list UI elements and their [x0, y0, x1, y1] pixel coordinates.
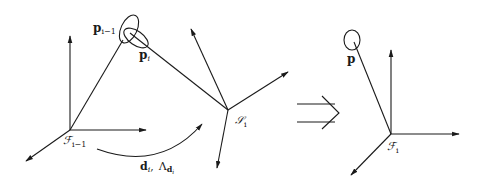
vector-frame-to-point — [70, 40, 123, 130]
frame-prev: ℱi−1 — [26, 36, 146, 161]
vector-frame-to-point-right — [354, 42, 391, 134]
implies-arrow — [297, 96, 339, 129]
frame-curr-label: ℱi — [387, 140, 399, 155]
transform-arrow — [97, 124, 202, 156]
sensor-label: 𝒮i — [235, 114, 247, 129]
sensor-frame: 𝒮i — [191, 29, 288, 168]
vector-point-to-sensor — [130, 33, 228, 110]
frame-prev-label: ℱi−1 — [63, 134, 86, 149]
point-uncertainty-ellipse-right — [344, 30, 360, 50]
frame-curr: ℱi — [351, 50, 459, 175]
sensor-axis-down — [217, 110, 228, 168]
diagram: ℱi−1 pi−1 pi 𝒮i di,Λdi ℱi — [0, 0, 483, 185]
sensor-axis-right — [228, 72, 288, 110]
sensor-axis-up — [191, 29, 228, 110]
transform-label: di,Λdi — [140, 160, 174, 175]
point-label-right: p — [347, 52, 355, 66]
point-prev-label: pi−1 — [93, 21, 116, 36]
frame-curr-axis-down — [351, 134, 391, 175]
point-curr-label: pi — [139, 48, 150, 63]
